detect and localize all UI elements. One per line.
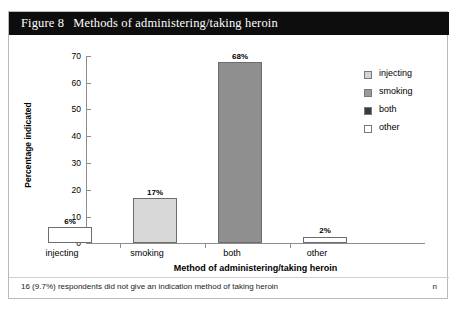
legend-swatch-injecting (364, 71, 372, 79)
figure-footnote: 16 (9.7%) respondents did not give an in… (21, 282, 278, 291)
y-tick-label-60-wrap: 60 (43, 79, 81, 87)
y-tick-label-40: 40 (47, 132, 81, 140)
y-tick-40 (86, 136, 91, 137)
bar-value-injecting: 6% (40, 217, 100, 226)
x-axis-label: Method of administering/taking heroin (86, 263, 425, 273)
legend-label-injecting: injecting (379, 68, 412, 78)
y-tick-label-40-wrap: 40 (43, 132, 81, 140)
figure-container: Figure 8Methods of administering/taking … (8, 11, 448, 299)
bar-smoking (133, 198, 177, 243)
y-tick-label-30: 30 (47, 159, 81, 167)
x-category-label-injecting: injecting (17, 248, 107, 258)
legend-label-smoking: smoking (379, 86, 413, 96)
bar-both (218, 62, 262, 243)
x-axis-line (86, 243, 425, 244)
y-tick-label-70: 70 (47, 52, 81, 60)
x-category-label-both: both (187, 248, 277, 258)
y-tick-label-20-wrap: 20 (43, 186, 81, 194)
bar-value-smoking: 17% (125, 188, 185, 197)
y-tick-label-70-wrap: 70 (43, 52, 81, 60)
figure-title: Figure 8Methods of administering/taking … (21, 16, 278, 31)
bar-injecting (48, 227, 92, 243)
y-tick-20 (86, 190, 91, 191)
bar-value-both: 68% (210, 52, 270, 61)
bar-other (303, 237, 347, 243)
figure-title-text: Methods of administering/taking heroin (73, 16, 278, 30)
chart-plot-area: Percentage indicated 70 60 50 40 30 20 (9, 35, 449, 277)
y-axis-line (86, 56, 87, 244)
y-tick-60 (86, 83, 91, 84)
bar-value-other: 2% (295, 226, 355, 235)
footer-n-marker: n (433, 282, 437, 291)
y-axis-label: Percentage indicated (23, 85, 33, 205)
y-tick-label-50-wrap: 50 (43, 105, 81, 113)
y-tick-30 (86, 163, 91, 164)
y-tick-label-20: 20 (47, 186, 81, 194)
y-tick-50 (86, 109, 91, 110)
figure-number: Figure 8 (21, 16, 64, 30)
legend-swatch-other (364, 125, 372, 133)
figure-title-banner: Figure 8Methods of administering/taking … (9, 12, 449, 35)
legend-swatch-smoking (364, 89, 372, 97)
y-tick-0 (86, 243, 91, 244)
legend-label-other: other (379, 122, 400, 132)
y-tick-label-60: 60 (47, 79, 81, 87)
legend-label-both: both (379, 104, 397, 114)
x-category-label-smoking: smoking (102, 248, 192, 258)
legend-swatch-both (364, 107, 372, 115)
footer-divider (9, 277, 449, 278)
x-category-label-other: other (272, 248, 362, 258)
y-tick-label-50: 50 (47, 105, 81, 113)
y-tick-70 (86, 56, 91, 57)
y-tick-label-30-wrap: 30 (43, 159, 81, 167)
